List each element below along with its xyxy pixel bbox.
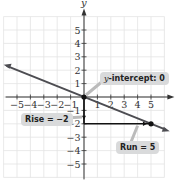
y-axis-arrow-icon [82,9,87,16]
rise-label: Rise = −2 [21,113,73,126]
y-tick-label: 4 [74,38,80,49]
x-tick-label: −2 [50,99,64,110]
y-tick-label: 2 [74,65,80,76]
rise-arrow-icon [82,116,86,120]
y-tick-label: 5 [74,25,80,36]
data-point [148,121,153,126]
x-tick-label: 5 [148,99,154,110]
x-tick-label: −3 [37,99,51,110]
x-tick-label: 3 [121,99,127,110]
y-axis-label: y [80,0,87,8]
y-tick-label: −3 [66,132,80,143]
coordinate-plane: −5−4−3−2−112345−5−4−3−2−112345xy [0,0,176,183]
x-axis-arrow-icon [167,95,174,100]
y-intercept-label: y-intercept: 0 [100,72,169,85]
line-arrow-right-icon [162,127,170,132]
y-tick-label: −4 [66,145,80,156]
data-point [81,94,86,99]
x-tick-label: −4 [23,99,37,110]
y-tick-label: −5 [66,159,80,170]
y-tick-label: 1 [74,78,80,89]
y-tick-label: 3 [74,51,80,62]
run-label: Run = 5 [116,141,159,154]
run-pointer [131,126,138,142]
x-tick-label: −5 [10,99,24,110]
x-tick-label: 4 [135,99,141,110]
